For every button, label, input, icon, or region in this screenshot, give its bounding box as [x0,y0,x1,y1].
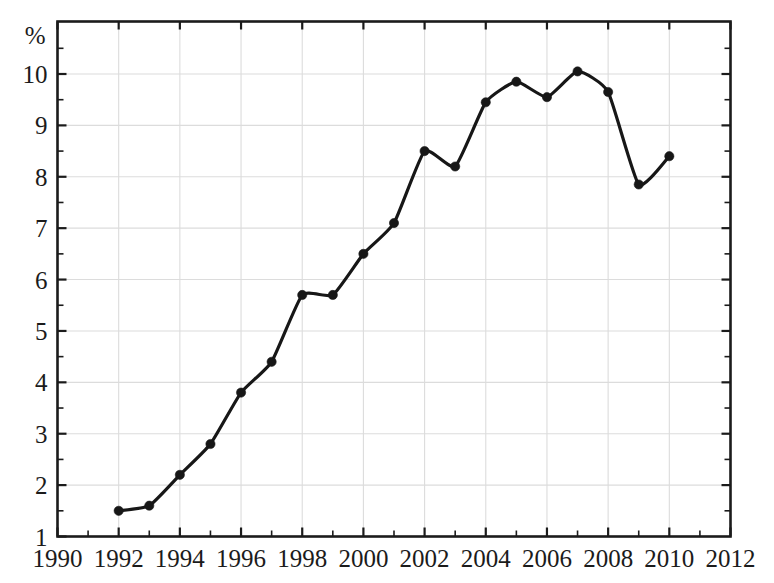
x-axis-tick-label: 1998 [277,545,327,572]
series-data-point: 1997: 4.4% [267,357,276,366]
y-axis-tick-label: 10 [23,61,48,88]
series-data-point: 2003: 8.2% [451,162,460,171]
x-axis-tick-label: 2002 [400,545,450,572]
series-data-point: 2000: 6.5% [359,249,368,258]
series-data-point: 2006: 9.55% [542,93,551,102]
x-axis-tick-label: 1994 [155,545,206,572]
chart-background [0,0,774,583]
x-axis-tick-label: 1996 [216,545,266,572]
series-data-point: 2010: 8.4% [665,152,674,161]
y-axis-tick-label: 8 [35,164,48,191]
x-axis-tick-label: 1990 [33,545,83,572]
series-data-point: 2004: 9.45% [481,98,490,107]
y-axis-tick-label: 9 [35,112,48,139]
x-axis-tick-label: 2006 [522,545,572,572]
series-data-point: 2005: 9.85% [512,77,521,86]
series-data-point: 1998: 5.7% [298,290,307,299]
series-data-point: 1993: 1.6% [145,501,154,510]
y-axis-tick-label: 2 [35,472,48,499]
x-axis-tick-label: 2000 [338,545,388,572]
series-data-point: 2009: 7.85% [634,180,643,189]
series-data-point: 2001: 7.1% [389,218,398,227]
y-axis-tick-label: 6 [35,267,48,294]
x-axis-tick-label: 2008 [583,545,633,572]
series-data-point: 1996: 3.8% [236,388,245,397]
series-data-point: 1995: 2.8% [206,439,215,448]
series-data-point: 1992: 1.5% [114,506,123,515]
x-axis-tick-label: 2012 [706,545,756,572]
percent-unit-label: % [25,22,46,49]
series-data-point: 1994: 2.2% [175,470,184,479]
chart-canvas: 12345678910 1990199219941996199820002002… [0,0,774,583]
y-axis-tick-label: 3 [35,421,48,448]
series-data-point: 2008: 9.65% [604,87,613,96]
series-data-point: 2002: 8.5% [420,146,429,155]
y-axis-tick-label: 4 [35,369,48,396]
series-data-point: 2007: 10.05% [573,67,582,76]
x-axis-tick-label: 1992 [94,545,144,572]
y-axis-tick-label: 5 [35,318,48,345]
x-axis-tick-label: 2010 [644,545,694,572]
line-chart: 12345678910 1990199219941996199820002002… [0,0,774,583]
series-data-point: 1999: 5.7% [328,290,337,299]
y-axis-tick-label: 7 [35,215,48,242]
y-axis-unit-label: % [25,22,46,49]
x-axis-tick-label: 2004 [461,545,512,572]
